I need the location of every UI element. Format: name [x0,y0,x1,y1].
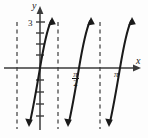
x-axis-label: x [136,56,140,66]
x-tick-label-pi: π [114,70,119,79]
arrowhead-up-left [48,17,56,26]
arrowhead-down-right [105,118,113,127]
pi-over-two-numerator: π [72,70,79,78]
asymptote-group [17,22,100,129]
arrowhead-up-middle [87,17,95,26]
arrowhead-down-middle [64,118,72,127]
y-tick-label-3: 3 [28,19,33,28]
graph-figure: y x 3 π 2 π [0,0,148,138]
arrowhead-down-left [25,118,33,127]
y-axis-arrowhead [37,6,44,14]
x-tick-label-pi-over-two: π 2 [72,70,79,88]
pi-over-two-denominator: 2 [72,79,79,88]
arrowhead-up-right [128,17,136,26]
y-axis-label: y [32,1,36,11]
